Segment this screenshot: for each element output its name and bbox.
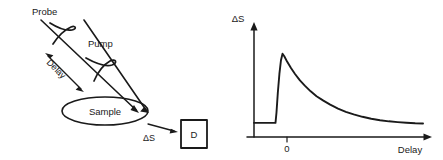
signal-label: ΔS — [143, 133, 155, 143]
y-axis-label: ΔS — [232, 13, 245, 24]
transient-plot: 0 ΔS Delay — [232, 13, 432, 155]
probe-label: Probe — [32, 6, 57, 17]
signal-trace — [254, 54, 423, 124]
figure-root: Probe Pump — [0, 0, 443, 160]
pump-probe-diagram: Probe Pump — [32, 6, 207, 148]
x-axis-label: Delay — [398, 144, 423, 155]
sample-label: Sample — [89, 106, 121, 117]
detector-label: D — [191, 129, 198, 140]
delay-label: Delay — [45, 57, 69, 81]
figure-canvas: Probe Pump — [0, 0, 443, 160]
y-axis — [250, 22, 257, 137]
x-tick-label-zero: 0 — [284, 143, 289, 154]
pump-beam-arrow — [84, 20, 149, 113]
pump-label: Pump — [88, 38, 113, 49]
x-axis — [247, 133, 432, 140]
